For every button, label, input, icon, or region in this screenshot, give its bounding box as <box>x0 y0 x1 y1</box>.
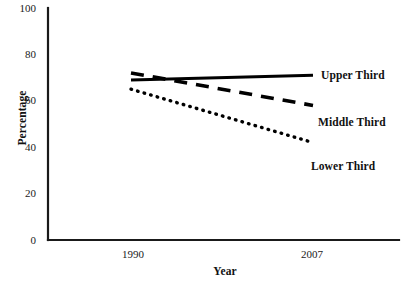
y-tick-label-0: 0 <box>6 235 36 246</box>
plot-area <box>0 0 402 284</box>
series-label-lower-third: Lower Third <box>311 160 375 172</box>
x-axis-title: Year <box>155 265 295 277</box>
x-tick-label-1990: 1990 <box>103 249 163 260</box>
y-tick-label-100: 100 <box>6 3 36 14</box>
series-line-lower-third <box>131 89 313 142</box>
series-label-upper-third: Upper Third <box>321 69 385 81</box>
x-tick-label-2007: 2007 <box>282 249 342 260</box>
series-label-middle-third: Middle Third <box>318 116 386 128</box>
line-chart: 100 80 60 40 20 0 1990 2007 Percentage Y… <box>0 0 402 284</box>
y-tick-label-20: 20 <box>6 188 36 199</box>
y-axis-title: Percentage <box>16 73 28 163</box>
y-tick-label-80: 80 <box>6 49 36 60</box>
